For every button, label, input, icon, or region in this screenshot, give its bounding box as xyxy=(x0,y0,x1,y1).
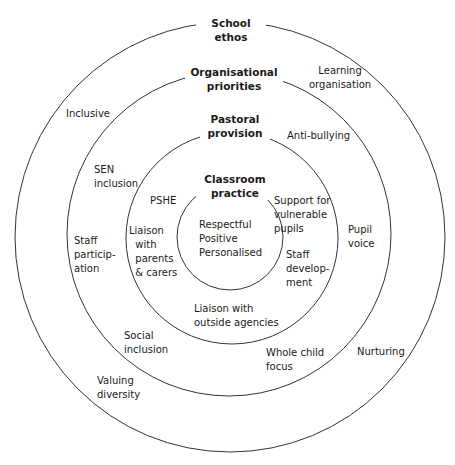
title-pastoral-provision: Pastoral provision xyxy=(200,112,270,140)
label-staff-development: Staff develop- ment xyxy=(286,248,329,290)
label-valuing-diversity: Valuing diversity xyxy=(97,374,140,402)
label-staff-participation: Staff particip- ation xyxy=(74,234,116,276)
label-nurturing: Nurturing xyxy=(357,345,405,359)
label-pshe: PSHE xyxy=(150,194,176,208)
label-liaison-outside-agencies: Liaison with outside agencies xyxy=(194,302,279,330)
label-liaison-parents-carers: Liaison with parents & carers xyxy=(129,224,177,280)
label-pupil-voice: Pupil voice xyxy=(348,223,374,251)
label-inclusive: Inclusive xyxy=(66,107,110,121)
label-anti-bullying: Anti-bullying xyxy=(287,129,350,143)
label-learning-organisation: Learning organisation xyxy=(309,64,371,92)
label-respectful-positive-personalised: Respectful Positive Personalised xyxy=(199,218,262,260)
title-classroom-practice: Classroom practice xyxy=(196,172,274,200)
label-whole-child-focus: Whole child focus xyxy=(266,346,324,374)
title-school-ethos: School ethos xyxy=(196,16,266,44)
label-support-vulnerable-pupils: Support for vulnerable pupils xyxy=(274,194,330,236)
label-sen-inclusion: SEN inclusion xyxy=(94,163,138,191)
label-social-inclusion: Social inclusion xyxy=(124,329,168,357)
title-organisational-priorities: Organisational priorities xyxy=(185,65,283,93)
